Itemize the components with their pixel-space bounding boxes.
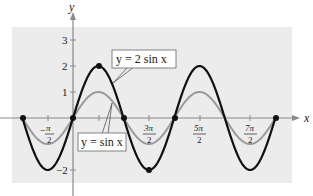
y-tick-1: 1 xyxy=(62,86,68,98)
y-tick-2: 2 xyxy=(62,60,68,72)
x-tick-3pi-half-num: 3π xyxy=(143,123,154,133)
x-tick-neg-pi-half-num: π xyxy=(46,123,51,133)
y-tick-3: 3 xyxy=(62,34,68,46)
svg-text:y = 2 sin x: y = 2 sin x xyxy=(116,52,167,66)
x-axis-arrow-icon xyxy=(292,115,300,121)
svg-text:2: 2 xyxy=(197,135,202,145)
y-tick-neg2: −2 xyxy=(56,164,68,176)
x-tick-5pi-half-num: 5π xyxy=(194,123,204,133)
x-axis-label: x xyxy=(303,111,310,125)
chart: x y 3 2 1 −2 − π 2 3π 2 5π 2 7π 2 xyxy=(0,0,313,196)
y-axis-label: y xyxy=(68,0,75,14)
x-tick-7pi-half-num: 7π xyxy=(245,123,255,133)
svg-text:y = sin x: y = sin x xyxy=(81,135,123,149)
